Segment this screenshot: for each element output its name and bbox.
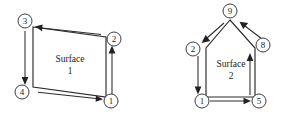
surface-2-edge-arrow-to-node-1 xyxy=(195,56,202,95)
surface-2-node-2[interactable]: 2 xyxy=(186,42,200,56)
surface-2-group: Surface 2 9 8 5 1 xyxy=(186,4,270,108)
surface-2-node-8[interactable]: 8 xyxy=(256,38,270,52)
surface-1-group: Surface 1 3 2 1 4 xyxy=(15,14,121,108)
surface-1-node-4[interactable]: 4 xyxy=(15,85,29,99)
surface-2-node-1[interactable]: 1 xyxy=(195,94,209,108)
surface-1-node-3-label: 3 xyxy=(23,16,28,26)
surface-1-node-3[interactable]: 3 xyxy=(18,14,32,28)
surface-2-node-2-label: 2 xyxy=(191,44,196,54)
surface-2-edge-arrow-to-node-9 xyxy=(240,22,263,39)
surface-2-label-line1: Surface xyxy=(216,59,245,69)
surface-1-node-2[interactable]: 2 xyxy=(107,32,121,46)
surface-2-label-line2: 2 xyxy=(229,71,234,81)
surface-1-edge-arrow-to-node-1 xyxy=(38,92,103,102)
surface-2-edge-arrow-to-node-5 xyxy=(210,98,251,104)
surface-2-node-8-label: 8 xyxy=(261,40,266,50)
surface-diagram-canvas: Surface 1 3 2 1 4 xyxy=(0,0,288,117)
surface-1-node-1[interactable]: 1 xyxy=(104,94,118,108)
surface-2-node-5[interactable]: 5 xyxy=(252,94,266,108)
surface-2-node-9-label: 9 xyxy=(228,6,233,16)
surface-1-edge-arrow-to-node-2 xyxy=(109,46,116,96)
diagram-container: Surface 1 3 2 1 4 xyxy=(0,0,288,117)
surface-2-node-5-label: 5 xyxy=(257,96,262,106)
surface-2-node-9[interactable]: 9 xyxy=(223,4,237,18)
surface-1-label-line1: Surface xyxy=(55,54,84,64)
surface-1-node-4-label: 4 xyxy=(20,87,25,97)
surface-2-edge-arrow-to-node-8 xyxy=(247,53,254,95)
surface-1-label-line2: 1 xyxy=(68,66,73,76)
surface-1-edge-arrow-to-node-4 xyxy=(22,31,29,85)
surface-1-edge-arrow-to-node-3 xyxy=(35,25,101,35)
surface-1-node-1-label: 1 xyxy=(109,96,114,106)
surface-1-node-2-label: 2 xyxy=(112,34,117,44)
surface-2-node-1-label: 1 xyxy=(200,96,205,106)
